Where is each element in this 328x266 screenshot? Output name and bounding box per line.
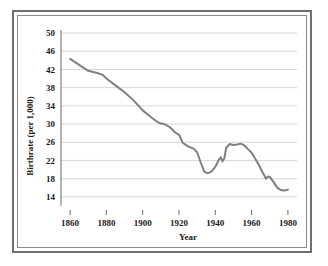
x-tick-marks-group xyxy=(61,210,297,215)
chart-plot-wrapper: 14182226303438424650 1860188019001920194… xyxy=(20,18,304,245)
x-tick-label-1940: 1940 xyxy=(206,218,225,228)
y-tick-label-46: 46 xyxy=(46,46,56,56)
data-line-series-0 xyxy=(70,59,288,191)
x-tick-label-1920: 1920 xyxy=(170,218,189,228)
x-axis-title: Year xyxy=(179,232,197,242)
y-tick-label-26: 26 xyxy=(46,137,56,147)
y-tick-label-18: 18 xyxy=(46,174,56,184)
y-axis-title: Birthrate (per 1,000) xyxy=(25,96,35,176)
y-tick-label-14: 14 xyxy=(46,192,56,202)
axis-lines-group xyxy=(61,30,297,206)
figure-container: 14182226303438424650 1860188019001920194… xyxy=(0,0,328,266)
x-tick-label-1860: 1860 xyxy=(61,218,80,228)
data-series-group xyxy=(70,59,288,191)
x-tick-labels-group: 1860188019001920194019601980 xyxy=(61,218,297,228)
x-tick-label-1960: 1960 xyxy=(243,218,262,228)
x-tick-label-1880: 1880 xyxy=(97,218,116,228)
y-tick-label-30: 30 xyxy=(46,119,56,129)
y-tick-labels-group: 14182226303438424650 xyxy=(46,28,56,202)
birthrate-line-chart: 14182226303438424650 1860188019001920194… xyxy=(20,18,304,245)
x-tick-label-1980: 1980 xyxy=(279,218,298,228)
y-tick-label-50: 50 xyxy=(46,28,56,38)
x-tick-label-1900: 1900 xyxy=(134,218,153,228)
y-tick-label-34: 34 xyxy=(46,101,56,111)
y-tick-label-42: 42 xyxy=(46,65,56,75)
y-tick-label-38: 38 xyxy=(46,83,56,93)
y-tick-label-22: 22 xyxy=(46,156,56,166)
